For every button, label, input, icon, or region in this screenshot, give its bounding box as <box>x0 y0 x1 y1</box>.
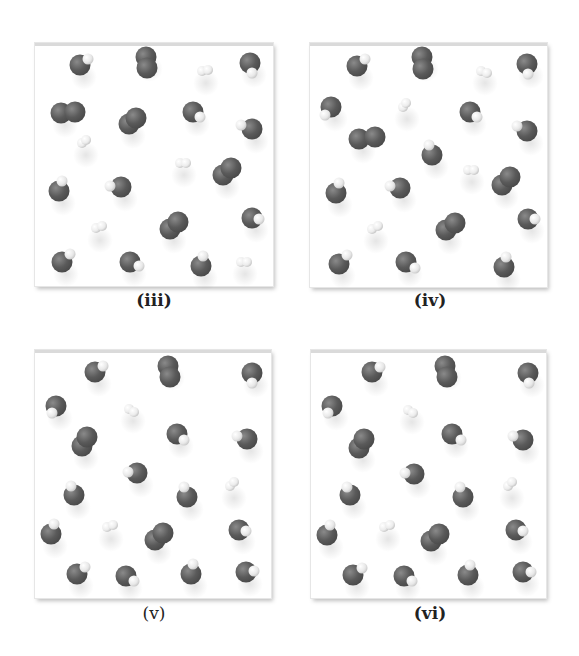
hydrogen-atom-icon <box>401 98 411 108</box>
hydrogen-atom-icon <box>203 65 213 75</box>
oxygen-atom-icon <box>77 427 98 448</box>
hydrogen-atom-icon <box>360 54 371 65</box>
hydrogen-atom-icon <box>323 408 334 419</box>
hydrogen-atom-icon <box>342 482 353 493</box>
hydrogen-atom-icon <box>385 181 396 192</box>
oxygen-atom-icon <box>437 367 458 388</box>
hydrogen-atom-icon <box>232 431 243 442</box>
hydrogen-atom-icon <box>195 112 206 123</box>
hydrogen-atom-icon <box>469 165 479 175</box>
hydrogen-atom-icon <box>179 435 190 446</box>
hydrogen-atom-icon <box>134 261 145 272</box>
hydrogen-atom-icon <box>57 176 68 187</box>
hydrogen-atom-icon <box>247 378 258 389</box>
oxygen-atom-icon <box>137 58 158 79</box>
hydrogen-atom-icon <box>98 361 109 372</box>
panel-label-iii: (iii) <box>104 290 204 310</box>
hydrogen-atom-icon <box>508 431 519 442</box>
hydrogen-atom-icon <box>375 362 386 373</box>
hydrogen-atom-icon <box>518 526 529 537</box>
oxygen-atom-icon <box>365 127 386 148</box>
hydrogen-atom-icon <box>236 120 247 131</box>
hydrogen-atom-icon <box>242 257 252 267</box>
panel-label-v: (v) <box>104 603 204 623</box>
hydrogen-atom-icon <box>247 68 258 79</box>
panel-label-vi: (vi) <box>380 603 480 623</box>
oxygen-atom-icon <box>153 523 174 544</box>
hydrogen-atom-icon <box>123 467 134 478</box>
hydrogen-atom-icon <box>80 562 91 573</box>
oxygen-atom-icon <box>168 212 189 233</box>
hydrogen-atom-icon <box>407 576 418 587</box>
hydrogen-atom-icon <box>249 566 260 577</box>
oxygen-atom-icon <box>429 524 450 545</box>
hydrogen-atom-icon <box>229 477 239 487</box>
hydrogen-atom-icon <box>472 112 483 123</box>
oxygen-atom-icon <box>126 108 147 129</box>
oxygen-atom-icon <box>221 158 242 179</box>
hydrogen-atom-icon <box>424 140 435 151</box>
hydrogen-atom-icon <box>456 435 467 446</box>
hydrogen-atom-icon <box>455 482 466 493</box>
oxygen-atom-icon <box>160 367 181 388</box>
hydrogen-atom-icon <box>325 520 336 531</box>
oxygen-atom-icon <box>500 167 521 188</box>
hydrogen-atom-icon <box>530 214 541 225</box>
hydrogen-atom-icon <box>523 69 534 80</box>
hydrogen-atom-icon <box>320 110 331 121</box>
hydrogen-atom-icon <box>181 158 191 168</box>
hydrogen-atom-icon <box>129 407 139 417</box>
hydrogen-atom-icon <box>465 560 476 571</box>
hydrogen-atom-icon <box>81 135 91 145</box>
hydrogen-atom-icon <box>108 520 118 530</box>
hydrogen-atom-icon <box>373 221 383 231</box>
hydrogen-atom-icon <box>342 250 353 261</box>
hydrogen-atom-icon <box>507 477 517 487</box>
hydrogen-atom-icon <box>97 221 107 231</box>
hydrogen-atom-icon <box>357 563 368 574</box>
hydrogen-atom-icon <box>49 519 60 530</box>
hydrogen-atom-icon <box>179 482 190 493</box>
hydrogen-atom-icon <box>400 468 411 479</box>
oxygen-atom-icon <box>413 59 434 80</box>
panel-label-iv: (iv) <box>380 290 480 310</box>
hydrogen-atom-icon <box>512 121 523 132</box>
hydrogen-atom-icon <box>254 214 265 225</box>
hydrogen-atom-icon <box>334 178 345 189</box>
hydrogen-atom-icon <box>188 559 199 570</box>
oxygen-atom-icon <box>354 429 375 450</box>
hydrogen-atom-icon <box>526 567 537 578</box>
hydrogen-atom-icon <box>241 526 252 537</box>
hydrogen-atom-icon <box>198 251 209 262</box>
hydrogen-atom-icon <box>408 408 418 418</box>
hydrogen-atom-icon <box>65 249 76 260</box>
hydrogen-atom-icon <box>47 408 58 419</box>
hydrogen-atom-icon <box>385 520 395 530</box>
hydrogen-atom-icon <box>66 481 77 492</box>
hydrogen-atom-icon <box>129 576 140 587</box>
hydrogen-atom-icon <box>105 181 116 192</box>
hydrogen-atom-icon <box>410 263 421 274</box>
hydrogen-atom-icon <box>524 378 535 389</box>
hydrogen-atom-icon <box>482 68 492 78</box>
hydrogen-atom-icon <box>501 252 512 263</box>
hydrogen-atom-icon <box>83 54 94 65</box>
oxygen-atom-icon <box>445 213 466 234</box>
oxygen-atom-icon <box>65 102 86 123</box>
